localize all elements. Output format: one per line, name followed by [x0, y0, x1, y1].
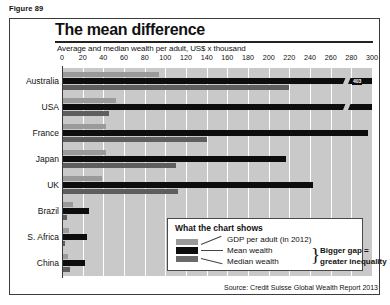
legend-annotation-line1: Bigger gap =: [320, 246, 369, 255]
x-tick-40: 40: [99, 53, 107, 62]
legend-heading: What the chart shows: [175, 223, 263, 233]
y-axis-category-labels: AustraliaUSAFranceJapanUKBrazilS. Africa…: [0, 68, 59, 276]
category-label-brazil: Brazil: [1, 206, 59, 216]
leader-line-gdp: [201, 236, 222, 245]
category-label-s-africa: S. Africa: [1, 232, 59, 242]
bar-usa-mean: [62, 104, 372, 110]
x-tick-240: 240: [304, 53, 316, 62]
bar-france-gdp: [62, 124, 106, 129]
x-tick-120: 120: [180, 53, 192, 62]
bar-france-median: [62, 137, 207, 142]
legend-brace: }: [311, 245, 320, 264]
bar-uk-gdp: [62, 176, 102, 181]
bar-japan-median: [62, 163, 176, 168]
bar-uk-mean: [62, 182, 313, 188]
bar-japan-mean: [62, 156, 286, 162]
category-label-china: China: [1, 258, 59, 268]
legend-swatch-mean: [176, 247, 198, 254]
x-tick-280: 280: [345, 53, 357, 62]
category-label-japan: Japan: [1, 154, 59, 164]
title-divider: [55, 41, 373, 43]
x-tick-220: 220: [283, 53, 295, 62]
bar-value-label-australia: 403: [352, 78, 362, 85]
gridline-80: [145, 68, 146, 276]
x-tick-60: 60: [120, 53, 128, 62]
gridline-60: [124, 68, 125, 276]
x-tick-20: 20: [79, 53, 87, 62]
gridline-300: [372, 68, 373, 276]
bar-brazil-mean: [62, 208, 89, 214]
x-tick-300: 300: [366, 53, 378, 62]
bar-australia-gdp: [62, 72, 159, 77]
bar-usa-median: [62, 111, 109, 116]
x-tick-140: 140: [201, 53, 213, 62]
bar-australia-median: [62, 85, 289, 90]
bar-brazil-gdp: [62, 202, 73, 207]
legend-swatch-gdp: [176, 239, 198, 245]
category-label-uk: UK: [1, 180, 59, 190]
bar-usa-gdp: [62, 98, 116, 103]
legend-label-mean: Mean wealth: [227, 246, 272, 255]
legend-label-gdp: GDP per adult (in 2012): [227, 235, 311, 244]
x-tick-100: 100: [159, 53, 171, 62]
x-tick-160: 160: [221, 53, 233, 62]
figure-label: Figure 89: [9, 4, 43, 13]
chart-subtitle: Average and median wealth per adult, US$…: [57, 44, 246, 53]
bar-china-mean: [62, 260, 85, 266]
x-axis-tick-labels: 0204060801001201401601802002202402602803…: [0, 53, 390, 64]
leader-line-mean: [201, 250, 223, 251]
legend-swatch-median: [176, 256, 198, 262]
bar-france-mean: [62, 130, 368, 136]
legend-label-median: Median wealth: [227, 257, 279, 266]
bar-china-median: [62, 267, 70, 272]
bar-japan-gdp: [62, 150, 106, 155]
bar-s-africa-mean: [62, 234, 87, 240]
leader-line-median: [201, 258, 223, 264]
category-label-australia: Australia: [1, 76, 59, 86]
y-axis-line: [62, 66, 63, 278]
bar-australia-mean: [62, 78, 372, 84]
chart-legend: What the chart shows GDP per adult (in 2…: [167, 218, 363, 271]
x-tick-260: 260: [325, 53, 337, 62]
bar-uk-median: [62, 189, 178, 194]
legend-annotation: Bigger gap = greater inequality: [320, 246, 387, 267]
legend-annotation-line2: greater inequality: [320, 257, 387, 266]
x-tick-200: 200: [263, 53, 275, 62]
category-label-usa: USA: [1, 102, 59, 112]
category-label-france: France: [1, 128, 59, 138]
source-attribution: Source: Credit Suisse Global Wealth Repo…: [224, 284, 378, 291]
x-tick-80: 80: [141, 53, 149, 62]
figure-container: Figure 89 The mean difference Average an…: [0, 0, 390, 305]
x-tick-180: 180: [242, 53, 254, 62]
chart-title: The mean difference: [55, 21, 205, 39]
x-tick-0: 0: [60, 53, 64, 62]
